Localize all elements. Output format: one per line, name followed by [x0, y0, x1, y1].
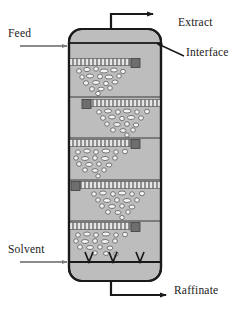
raffinate-pipe-arrow	[111, 280, 166, 295]
feed-label: Feed	[8, 27, 31, 39]
extract-pipe-arrow	[111, 14, 153, 30]
raffinate-label: Raffinate	[174, 284, 218, 296]
interface-label: Interface	[186, 46, 229, 58]
extract-label: Extract	[178, 16, 213, 28]
extraction-column-diagram: Feed Extract Interface Solvent Raffinate	[0, 0, 249, 313]
tray-5-downcomer	[131, 223, 140, 232]
raffinate-stream	[111, 280, 166, 295]
tray-4-downcomer	[71, 182, 80, 191]
tray-1-perforated-plate	[69, 59, 130, 66]
tray-3-perforated-plate	[69, 140, 130, 147]
solvent-label: Solvent	[8, 243, 45, 255]
tray-2-perforated-plate	[91, 100, 161, 107]
tray-4-perforated-plate	[80, 182, 161, 189]
extract-stream	[111, 14, 153, 30]
tray-5-perforated-plate	[69, 223, 130, 230]
tray-1-downcomer	[131, 59, 140, 68]
tray-3-downcomer	[131, 140, 140, 149]
tray-2-downcomer	[82, 100, 91, 109]
